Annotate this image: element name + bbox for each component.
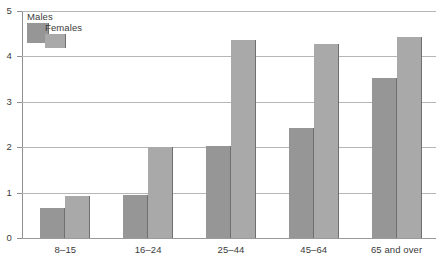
- bar-females-3: [231, 40, 256, 238]
- legend-swatch-females: [45, 34, 66, 48]
- y-axis-label-5: 5: [0, 6, 12, 16]
- bar-group: [206, 11, 256, 238]
- x-axis-label-4: 45–64: [274, 245, 354, 255]
- bar-males-1: [40, 208, 65, 238]
- bar-females-5: [397, 37, 422, 238]
- bar-chart: 012345 8–1516–2425–4445–6465 and over Ma…: [0, 0, 442, 261]
- y-axis-label-0: 0: [0, 233, 12, 243]
- bar-females-4: [314, 44, 339, 238]
- x-axis-label-2: 16–24: [108, 245, 188, 255]
- bar-males-2: [123, 195, 148, 238]
- bar-males-4: [289, 128, 314, 238]
- bar-group: [289, 11, 339, 238]
- bar-females-1: [65, 196, 90, 238]
- y-axis-label-1: 1: [0, 188, 12, 198]
- y-axis-label-4: 4: [0, 51, 12, 61]
- x-axis-label-5: 65 and over: [357, 245, 437, 255]
- legend-label-females: Females: [45, 23, 82, 33]
- y-axis-label-3: 3: [0, 97, 12, 107]
- x-axis-label-1: 8–15: [25, 245, 105, 255]
- bar-males-3: [206, 146, 231, 238]
- bar-females-2: [148, 147, 173, 238]
- y-axis-label-2: 2: [0, 142, 12, 152]
- legend-label-males: Males: [27, 12, 53, 22]
- bar-group: [372, 11, 422, 238]
- chart-legend: Males Females: [27, 12, 147, 52]
- bar-males-5: [372, 78, 397, 238]
- gridline-0: [22, 238, 436, 239]
- x-axis-label-3: 25–44: [191, 245, 271, 255]
